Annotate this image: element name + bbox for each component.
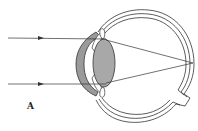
lens	[93, 39, 115, 87]
lower-refracted-ray	[106, 63, 193, 83]
optic-nerve	[173, 90, 190, 106]
eye-diagram	[0, 0, 198, 131]
ciliary-lower	[100, 87, 105, 97]
ciliary-upper	[100, 29, 105, 39]
panel-label: A	[27, 101, 34, 111]
upper-arrow-icon	[38, 36, 44, 40]
lower-arrow-icon	[38, 82, 44, 86]
upper-refracted-ray	[106, 40, 193, 63]
